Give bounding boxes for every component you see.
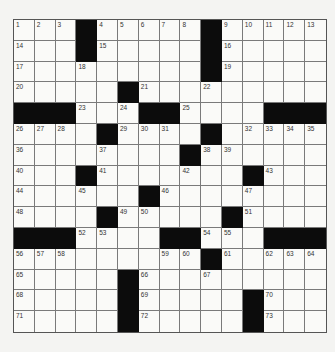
grid-cell[interactable] (201, 103, 222, 124)
grid-cell[interactable]: 53 (97, 228, 118, 249)
grid-cell[interactable]: 66 (139, 270, 160, 291)
grid-cell[interactable] (305, 186, 326, 207)
grid-cell[interactable] (118, 249, 139, 270)
grid-cell[interactable] (305, 311, 326, 332)
grid-cell[interactable]: 46 (160, 186, 181, 207)
grid-cell[interactable] (56, 145, 77, 166)
grid-cell[interactable] (35, 270, 56, 291)
grid-cell[interactable]: 13 (305, 20, 326, 41)
grid-cell[interactable]: 33 (264, 124, 285, 145)
grid-cell[interactable] (118, 166, 139, 187)
grid-cell[interactable] (35, 311, 56, 332)
grid-cell[interactable] (284, 270, 305, 291)
grid-cell[interactable]: 49 (118, 207, 139, 228)
grid-cell[interactable] (284, 311, 305, 332)
grid-cell[interactable]: 67 (201, 270, 222, 291)
grid-cell[interactable] (97, 62, 118, 83)
grid-cell[interactable]: 17 (14, 62, 35, 83)
grid-cell[interactable] (56, 186, 77, 207)
grid-cell[interactable] (284, 166, 305, 187)
grid-cell[interactable] (35, 207, 56, 228)
grid-cell[interactable]: 47 (243, 186, 264, 207)
grid-cell[interactable]: 59 (160, 249, 181, 270)
grid-cell[interactable] (97, 270, 118, 291)
grid-cell[interactable]: 31 (160, 124, 181, 145)
grid-cell[interactable] (97, 103, 118, 124)
grid-cell[interactable] (97, 186, 118, 207)
grid-cell[interactable] (160, 311, 181, 332)
grid-cell[interactable]: 36 (14, 145, 35, 166)
grid-cell[interactable]: 43 (264, 166, 285, 187)
grid-cell[interactable] (201, 311, 222, 332)
grid-cell[interactable] (76, 145, 97, 166)
grid-cell[interactable] (305, 62, 326, 83)
grid-cell[interactable] (180, 82, 201, 103)
grid-cell[interactable]: 44 (14, 186, 35, 207)
grid-cell[interactable] (264, 207, 285, 228)
grid-cell[interactable] (160, 207, 181, 228)
grid-cell[interactable] (160, 270, 181, 291)
grid-cell[interactable]: 55 (222, 228, 243, 249)
grid-cell[interactable] (76, 124, 97, 145)
grid-cell[interactable] (243, 145, 264, 166)
grid-cell[interactable] (222, 186, 243, 207)
grid-cell[interactable] (35, 145, 56, 166)
grid-cell[interactable] (222, 166, 243, 187)
grid-cell[interactable] (305, 145, 326, 166)
grid-cell[interactable]: 1 (14, 20, 35, 41)
grid-cell[interactable]: 15 (97, 41, 118, 62)
grid-cell[interactable] (180, 290, 201, 311)
grid-cell[interactable]: 51 (243, 207, 264, 228)
grid-cell[interactable]: 65 (14, 270, 35, 291)
grid-cell[interactable]: 10 (243, 20, 264, 41)
grid-cell[interactable] (35, 166, 56, 187)
grid-cell[interactable]: 34 (284, 124, 305, 145)
grid-cell[interactable] (222, 82, 243, 103)
grid-cell[interactable]: 68 (14, 290, 35, 311)
grid-cell[interactable] (97, 290, 118, 311)
grid-cell[interactable] (56, 62, 77, 83)
grid-cell[interactable] (243, 228, 264, 249)
grid-cell[interactable]: 23 (76, 103, 97, 124)
grid-cell[interactable] (284, 62, 305, 83)
grid-cell[interactable]: 38 (201, 145, 222, 166)
grid-cell[interactable] (35, 186, 56, 207)
grid-cell[interactable]: 18 (76, 62, 97, 83)
grid-cell[interactable]: 42 (180, 166, 201, 187)
grid-cell[interactable]: 63 (284, 249, 305, 270)
grid-cell[interactable] (180, 207, 201, 228)
grid-cell[interactable] (284, 82, 305, 103)
grid-cell[interactable] (222, 103, 243, 124)
grid-cell[interactable] (305, 290, 326, 311)
grid-cell[interactable] (180, 124, 201, 145)
grid-cell[interactable] (160, 166, 181, 187)
grid-cell[interactable]: 52 (76, 228, 97, 249)
grid-cell[interactable]: 69 (139, 290, 160, 311)
grid-cell[interactable]: 30 (139, 124, 160, 145)
grid-cell[interactable] (35, 82, 56, 103)
grid-cell[interactable] (118, 186, 139, 207)
grid-cell[interactable]: 32 (243, 124, 264, 145)
grid-cell[interactable] (264, 186, 285, 207)
grid-cell[interactable] (201, 186, 222, 207)
grid-cell[interactable] (118, 228, 139, 249)
grid-cell[interactable] (180, 186, 201, 207)
grid-cell[interactable] (118, 145, 139, 166)
grid-cell[interactable] (305, 41, 326, 62)
grid-cell[interactable] (160, 145, 181, 166)
grid-cell[interactable]: 19 (222, 62, 243, 83)
grid-cell[interactable] (97, 249, 118, 270)
grid-cell[interactable]: 57 (35, 249, 56, 270)
grid-cell[interactable]: 16 (222, 41, 243, 62)
grid-cell[interactable] (56, 270, 77, 291)
grid-cell[interactable] (264, 62, 285, 83)
grid-cell[interactable]: 41 (97, 166, 118, 187)
grid-cell[interactable] (76, 82, 97, 103)
grid-cell[interactable]: 9 (222, 20, 243, 41)
grid-cell[interactable] (35, 41, 56, 62)
grid-cell[interactable] (56, 82, 77, 103)
grid-cell[interactable] (76, 290, 97, 311)
grid-cell[interactable] (222, 290, 243, 311)
grid-cell[interactable]: 71 (14, 311, 35, 332)
grid-cell[interactable] (180, 311, 201, 332)
